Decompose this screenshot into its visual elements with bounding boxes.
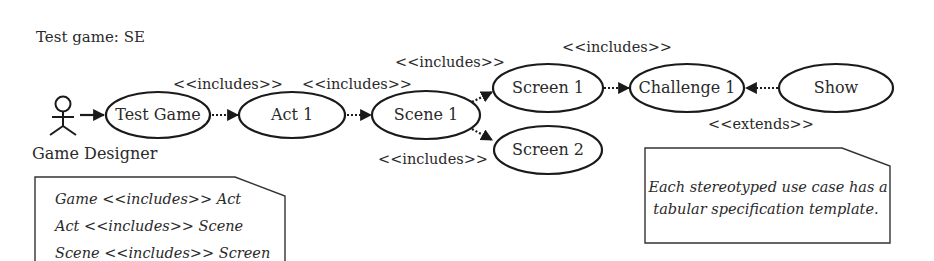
note-left: Game <<includes>> Act Act <<includes>> S… bbox=[35, 177, 285, 261]
use-case-screen-2[interactable]: Screen 2 bbox=[494, 126, 602, 174]
note-line: tabular specification template. bbox=[653, 201, 878, 217]
actor-label: Game Designer bbox=[32, 144, 158, 163]
stereotype-label: <<includes>> bbox=[562, 39, 672, 55]
use-case-label: Act 1 bbox=[270, 105, 313, 124]
diagram-title: Test game: SE bbox=[36, 28, 145, 46]
include-arrow bbox=[472, 129, 492, 140]
note-line: Scene <<includes>> Screen bbox=[55, 245, 270, 261]
use-case-label: Scene 1 bbox=[394, 105, 458, 124]
stereotype-label: <<includes>> bbox=[378, 151, 488, 167]
include-arrow bbox=[472, 92, 492, 102]
note-line: Act <<includes>> Scene bbox=[53, 218, 243, 234]
use-case-screen-1[interactable]: Screen 1 bbox=[493, 64, 603, 112]
use-case-label: Test Game bbox=[115, 105, 201, 124]
note-right: Each stereotyped use case has a tabular … bbox=[645, 148, 890, 243]
use-case-label: Challenge 1 bbox=[638, 78, 735, 97]
note-line: Each stereotyped use case has a bbox=[647, 179, 887, 195]
stereotype-label: <<includes>> bbox=[173, 76, 283, 92]
use-case-diagram: Test game: SE Game Designer Test Game <<… bbox=[0, 0, 934, 261]
stick-figure-icon bbox=[50, 97, 76, 136]
stereotype-label: <<extends>> bbox=[708, 116, 814, 132]
use-case-label: Screen 1 bbox=[512, 78, 584, 97]
use-case-label: Show bbox=[814, 78, 859, 97]
use-case-scene-1[interactable]: Scene 1 bbox=[372, 91, 480, 139]
use-case-label: Screen 2 bbox=[512, 140, 584, 159]
use-case-show[interactable]: Show bbox=[779, 64, 893, 112]
note-line: Game <<includes>> Act bbox=[55, 191, 241, 207]
use-case-act-1[interactable]: Act 1 bbox=[239, 92, 345, 138]
use-case-challenge-1[interactable]: Challenge 1 bbox=[630, 64, 744, 112]
stereotype-label: <<includes>> bbox=[302, 76, 412, 92]
use-case-test-game[interactable]: Test Game bbox=[106, 92, 210, 138]
stereotype-label: <<includes>> bbox=[395, 54, 505, 70]
